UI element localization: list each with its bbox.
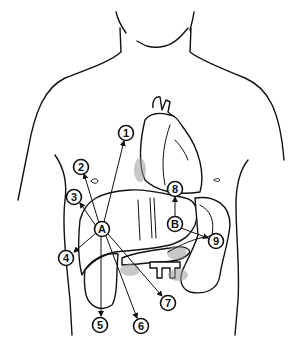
callout-4-label: 4 [63, 252, 70, 264]
callout-2-label: 2 [78, 161, 84, 173]
callout-4[interactable]: 4 [59, 251, 74, 266]
callout-3-label: 3 [71, 191, 77, 203]
heart-shading [134, 158, 146, 182]
callout-6[interactable]: 6 [134, 319, 149, 334]
right-nipple [214, 179, 220, 182]
callout-a-label: A [98, 223, 106, 235]
duodenum-shading [120, 264, 140, 276]
callout-5-label: 5 [97, 319, 103, 331]
left-arm-inner [55, 155, 72, 335]
callout-1-label: 1 [123, 127, 129, 139]
callout-9-label: 9 [213, 235, 219, 247]
callout-5[interactable]: 5 [93, 318, 108, 333]
heart [134, 97, 202, 193]
callout-6-label: 6 [138, 320, 144, 332]
left-nipple [91, 179, 98, 184]
callout-8-label: 8 [172, 183, 178, 195]
callout-7-label: 7 [165, 297, 171, 309]
callout-b-label: B [171, 218, 179, 230]
neck-right [190, 12, 284, 160]
callout-b[interactable]: B [168, 217, 183, 232]
heart-body [140, 113, 201, 193]
right-arm-inner [235, 160, 248, 335]
neck-left [18, 12, 126, 200]
callout-8[interactable]: 8 [168, 182, 183, 197]
callout-a[interactable]: A [95, 222, 110, 237]
callout-1[interactable]: 1 [119, 126, 134, 141]
pancreas-shading [167, 246, 187, 260]
anatomy-diagram: 1 2 3 4 5 6 7 8 9 A B [0, 0, 301, 345]
callout-2[interactable]: 2 [74, 160, 89, 175]
callout-9[interactable]: 9 [209, 234, 224, 249]
collar-line [137, 28, 188, 47]
callout-7[interactable]: 7 [161, 296, 176, 311]
callout-3[interactable]: 3 [67, 190, 82, 205]
spine-shading [168, 269, 188, 281]
diagram-canvas: 1 2 3 4 5 6 7 8 9 A B [0, 0, 301, 345]
